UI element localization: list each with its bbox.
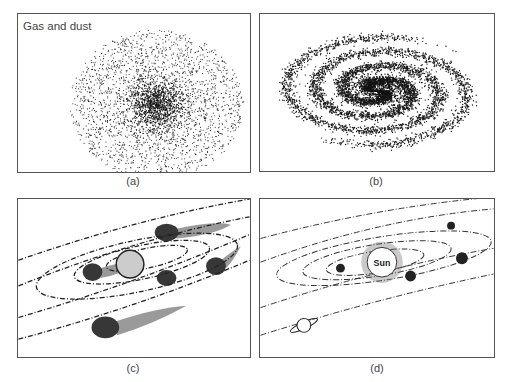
caption-b: (b) [356, 175, 396, 187]
gas-cloud-illustration [18, 14, 250, 172]
panel-c-protoplanets [17, 198, 251, 358]
panel-a-gas-and-dust: Gas and dust [17, 13, 251, 173]
planet [405, 271, 416, 282]
planet [336, 264, 345, 273]
protosun [116, 250, 144, 278]
sun-label: Sun [374, 258, 391, 268]
caption-c: (c) [113, 362, 153, 374]
protoplanet-clump [83, 263, 103, 281]
spiral-disk-illustration [260, 14, 494, 171]
protoplanet-disk-illustration [18, 199, 250, 357]
planet [456, 252, 468, 264]
panel-b-spiral-disk [259, 13, 495, 172]
solar-system-illustration: Sun [260, 199, 494, 357]
panel-d-solar-system: Sun [259, 198, 495, 358]
protoplanet-clump [155, 224, 179, 242]
caption-a: (a) [113, 175, 153, 187]
protoplanet-clump [92, 317, 120, 339]
caption-d: (d) [357, 362, 397, 374]
protoplanet-clump [157, 270, 177, 286]
planet [447, 222, 455, 230]
